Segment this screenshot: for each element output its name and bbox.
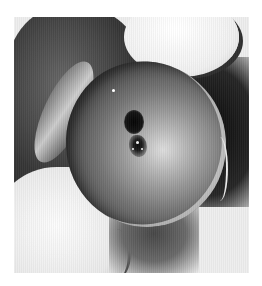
lesion-fleck [132,148,134,150]
lesion [129,135,147,157]
dark-opening [124,110,144,134]
structure-rim-highlight [212,137,228,201]
clinical-photograph: Black-and-white clinical photograph of a… [14,17,249,273]
specular-highlight [112,89,115,92]
lesion-fleck [136,141,139,144]
image-description: Black-and-white clinical photograph of a… [14,17,15,18]
lesion-fleck [141,148,143,150]
